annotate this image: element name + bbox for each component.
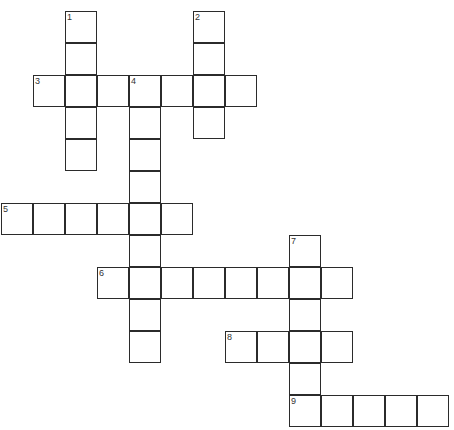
clue-number: 2 [195, 12, 200, 22]
crossword-cell[interactable] [161, 75, 193, 107]
crossword-cell[interactable]: 1 [65, 11, 97, 43]
clue-number: 1 [67, 12, 72, 22]
crossword-cell[interactable] [289, 363, 321, 395]
crossword-cell[interactable] [289, 331, 321, 363]
crossword-cell[interactable] [129, 203, 161, 235]
clue-number: 9 [291, 396, 296, 406]
crossword-cell[interactable] [161, 267, 193, 299]
clue-number: 4 [131, 76, 136, 86]
clue-number: 6 [99, 268, 104, 278]
crossword-cell[interactable] [353, 395, 385, 427]
crossword-cell[interactable] [33, 203, 65, 235]
crossword-cell[interactable] [65, 75, 97, 107]
crossword-cell[interactable]: 4 [129, 75, 161, 107]
crossword-cell[interactable]: 2 [193, 11, 225, 43]
crossword-cell[interactable] [97, 75, 129, 107]
crossword-cell[interactable] [129, 107, 161, 139]
crossword-cell[interactable]: 5 [1, 203, 33, 235]
clue-number: 7 [291, 236, 296, 246]
crossword-cell[interactable]: 3 [33, 75, 65, 107]
crossword-cell[interactable] [225, 267, 257, 299]
crossword-cell[interactable] [417, 395, 449, 427]
crossword-cell[interactable] [225, 75, 257, 107]
crossword-cell[interactable]: 6 [97, 267, 129, 299]
crossword-cell[interactable] [65, 107, 97, 139]
crossword-cell[interactable] [193, 107, 225, 139]
crossword-cell[interactable] [321, 331, 353, 363]
crossword-cell[interactable] [385, 395, 417, 427]
clue-number: 8 [227, 332, 232, 342]
crossword-cell[interactable] [129, 139, 161, 171]
crossword-grid: 123456798 [0, 0, 454, 430]
crossword-cell[interactable]: 7 [289, 235, 321, 267]
crossword-cell[interactable] [321, 395, 353, 427]
crossword-cell[interactable] [321, 267, 353, 299]
crossword-cell[interactable] [129, 267, 161, 299]
clue-number: 5 [3, 204, 8, 214]
crossword-cell[interactable] [161, 203, 193, 235]
crossword-cell[interactable] [193, 267, 225, 299]
crossword-cell[interactable] [97, 203, 129, 235]
crossword-cell[interactable] [129, 235, 161, 267]
crossword-cell[interactable] [129, 171, 161, 203]
crossword-cell[interactable] [65, 203, 97, 235]
crossword-cell[interactable] [65, 139, 97, 171]
crossword-cell[interactable]: 9 [289, 395, 321, 427]
crossword-cell[interactable] [257, 267, 289, 299]
crossword-cell[interactable] [289, 299, 321, 331]
crossword-cell[interactable] [289, 267, 321, 299]
crossword-cell[interactable] [193, 43, 225, 75]
crossword-cell[interactable] [65, 43, 97, 75]
crossword-cell[interactable] [129, 299, 161, 331]
crossword-cell[interactable] [257, 331, 289, 363]
crossword-cell[interactable] [193, 75, 225, 107]
crossword-cell[interactable]: 8 [225, 331, 257, 363]
crossword-cell[interactable] [129, 331, 161, 363]
clue-number: 3 [35, 76, 40, 86]
